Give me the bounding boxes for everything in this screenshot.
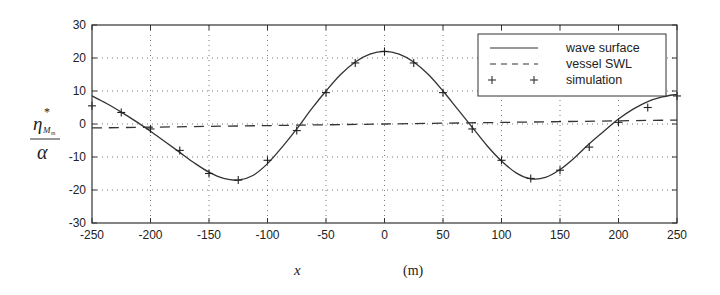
simulation-marker bbox=[176, 146, 184, 154]
x-tick-label: 200 bbox=[608, 228, 628, 242]
ylabel-sub-m: M bbox=[42, 125, 51, 135]
simulation-marker bbox=[117, 108, 125, 116]
simulation-marker bbox=[439, 89, 447, 97]
y-tick-label: 10 bbox=[73, 84, 87, 98]
x-tick-label: -200 bbox=[138, 228, 162, 242]
x-axis-unit: (m) bbox=[403, 263, 424, 279]
simulation-marker bbox=[585, 143, 593, 151]
x-tick-label: -100 bbox=[255, 228, 279, 242]
legend-label-wave-surface: wave surface bbox=[565, 41, 640, 55]
simulation-marker bbox=[615, 118, 623, 126]
y-tick-label: -20 bbox=[69, 183, 87, 197]
x-tick-label: 250 bbox=[667, 228, 687, 242]
simulation-marker bbox=[381, 47, 389, 55]
x-tick-label: -250 bbox=[80, 228, 104, 242]
simulation-marker bbox=[527, 174, 535, 182]
x-tick-label: 150 bbox=[550, 228, 570, 242]
x-tick-label: 50 bbox=[436, 228, 450, 242]
x-axis-label: x bbox=[293, 262, 301, 278]
x-tick-label: -150 bbox=[197, 228, 221, 242]
wave-chart: -250-200-150-100-50050100150200250-30-20… bbox=[0, 0, 720, 295]
y-tick-label: -30 bbox=[69, 216, 87, 230]
simulation-marker bbox=[322, 89, 330, 97]
ylabel-subsub-m: m bbox=[51, 130, 56, 136]
ylabel-star: * bbox=[44, 105, 50, 119]
y-tick-label: 30 bbox=[73, 18, 87, 32]
y-tick-label: 0 bbox=[79, 117, 86, 131]
simulation-marker bbox=[644, 104, 652, 112]
ylabel-eta: η bbox=[33, 113, 42, 134]
y-tick-label: -10 bbox=[69, 150, 87, 164]
ylabel-alpha: α bbox=[37, 141, 48, 163]
simulation-marker bbox=[234, 176, 242, 184]
x-tick-label: -50 bbox=[317, 228, 335, 242]
simulation-marker bbox=[264, 156, 272, 164]
legend-label-vessel-swl: vessel SWL bbox=[566, 57, 632, 71]
x-tick-label: 100 bbox=[491, 228, 511, 242]
vessel-swl-line bbox=[92, 120, 677, 128]
legend: wave surface vessel SWL simulation bbox=[478, 34, 666, 96]
y-axis-label: η * M m α bbox=[30, 105, 60, 163]
legend-label-simulation: simulation bbox=[566, 73, 622, 87]
simulation-marker bbox=[147, 125, 155, 133]
y-tick-label: 20 bbox=[73, 51, 87, 65]
x-tick-label: 0 bbox=[381, 228, 388, 242]
